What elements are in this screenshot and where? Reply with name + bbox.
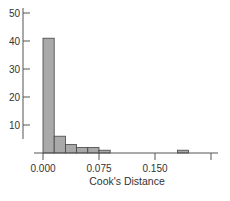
y-tick-label: 20 xyxy=(9,92,21,103)
histogram-bars xyxy=(43,38,189,153)
y-tick-label: 10 xyxy=(9,120,21,131)
histogram-bar xyxy=(77,147,88,153)
x-axis: 0.0000.0750.150 xyxy=(30,153,218,174)
histogram-bar xyxy=(54,136,65,153)
histogram-chart: 1020304050 0.0000.0750.150 Cook's Distan… xyxy=(0,0,230,201)
x-axis-title: Cook's Distance xyxy=(89,175,165,187)
y-axis: 1020304050 xyxy=(9,8,30,140)
y-tick-label: 30 xyxy=(9,64,21,75)
x-tick-label: 0.075 xyxy=(86,163,111,174)
x-tick-label: 0.150 xyxy=(142,163,167,174)
histogram-bar xyxy=(43,38,54,153)
histogram-bar xyxy=(65,145,76,153)
y-tick-label: 40 xyxy=(9,36,21,47)
x-tick-label: 0.000 xyxy=(30,163,55,174)
histogram-bar xyxy=(88,147,99,153)
y-tick-label: 50 xyxy=(9,8,21,19)
